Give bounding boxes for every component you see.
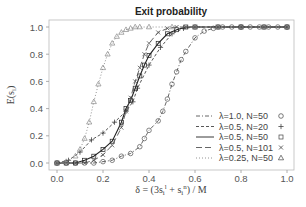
legend-label: λ=0.5, N=50 xyxy=(219,132,268,142)
x-tick-label: 0.6 xyxy=(188,173,201,184)
legend-label: λ=0.5, N=20 xyxy=(219,122,268,132)
x-tick-label: 0.2 xyxy=(96,173,109,184)
y-tick-label: 1.0 xyxy=(30,22,43,33)
chart-title: Exit probability xyxy=(135,6,208,17)
x-tick-label: 0.4 xyxy=(142,173,155,184)
x-tick-label: 1.0 xyxy=(280,173,293,184)
y-tick-label: 0.6 xyxy=(30,76,43,87)
legend-label: λ=0.25, N=50 xyxy=(219,153,273,163)
x-axis-label: δ = (3sil + sin) / M xyxy=(135,183,207,197)
x-tick-label: 0.0 xyxy=(50,173,63,184)
y-tick-label: 0.2 xyxy=(30,130,43,141)
exit-probability-chart: Exit probability 0.00.20.40.60.81.00.00.… xyxy=(0,0,306,207)
legend-label: λ=0.5, N=101 xyxy=(219,143,273,153)
x-tick-label: 0.8 xyxy=(234,173,247,184)
y-tick-label: 0.8 xyxy=(30,49,43,60)
y-axis-label: E(si) xyxy=(5,86,18,105)
y-tick-label: 0.0 xyxy=(30,158,43,169)
legend-label: λ=1.0, N=50 xyxy=(219,111,268,121)
y-tick-label: 0.4 xyxy=(30,103,43,114)
